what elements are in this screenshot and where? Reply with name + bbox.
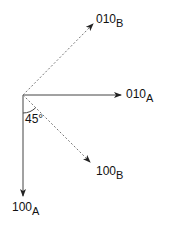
label-100b-base: 100 [96, 164, 116, 178]
label-100b-sub: B [116, 169, 123, 181]
label-100b: 100B [96, 165, 123, 177]
label-100a: 100A [12, 201, 39, 213]
label-010b-sub: B [116, 17, 123, 29]
label-angle: 45° [25, 113, 43, 125]
label-010a: 010A [126, 88, 153, 100]
arrow-010b [23, 24, 93, 95]
label-010b: 010B [96, 13, 123, 25]
label-010b-base: 010 [96, 12, 116, 26]
label-100a-base: 100 [12, 200, 32, 214]
label-010a-sub: A [146, 92, 153, 104]
label-010a-base: 010 [126, 87, 146, 101]
label-100a-sub: A [32, 205, 39, 217]
arrow-100b [23, 95, 90, 162]
